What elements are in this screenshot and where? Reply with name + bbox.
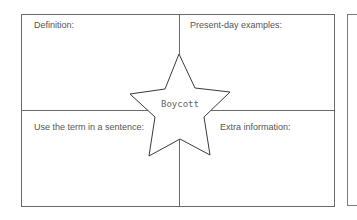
center-term: Boycott bbox=[161, 99, 199, 109]
extra-information-label: Extra information: bbox=[220, 122, 291, 132]
use-in-sentence-label: Use the term in a sentence: bbox=[34, 122, 144, 132]
definition-label: Definition: bbox=[34, 20, 74, 30]
adjacent-frame-edge bbox=[347, 14, 357, 206]
present-day-examples-label: Present-day examples: bbox=[190, 20, 282, 30]
